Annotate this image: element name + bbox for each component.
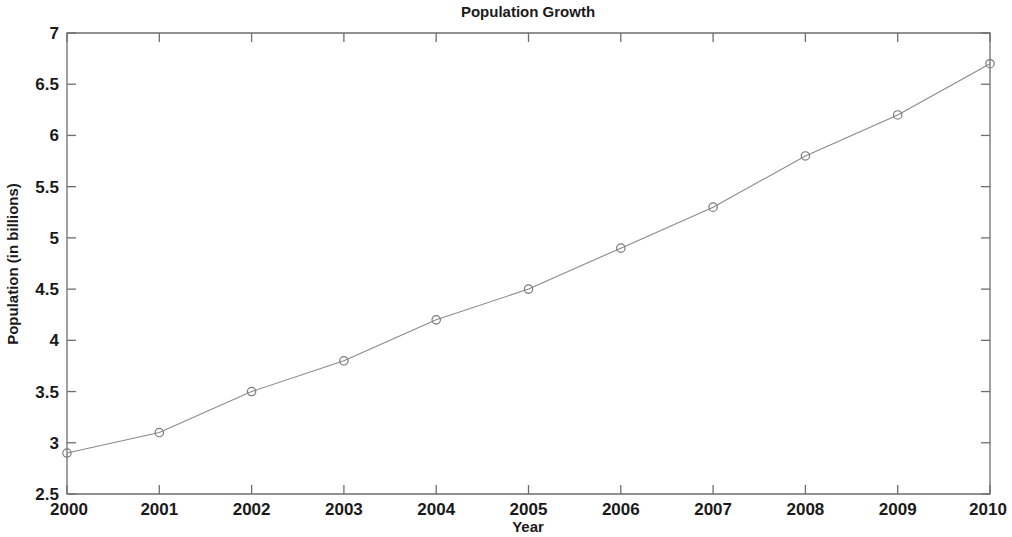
x-tick-label: 2008 [786, 500, 824, 519]
y-tick-label: 6.5 [35, 75, 59, 94]
y-tick-label: 3 [50, 434, 59, 453]
x-tick-label: 2000 [50, 500, 88, 519]
x-tick-label: 2002 [233, 500, 271, 519]
x-tick-label: 2007 [694, 500, 732, 519]
x-tick-label: 2003 [325, 500, 363, 519]
x-axis-label: Year [512, 518, 544, 535]
y-tick-label: 5.5 [35, 178, 59, 197]
y-tick-label: 3.5 [35, 383, 59, 402]
chart-background [0, 0, 1012, 537]
y-tick-label: 5 [50, 229, 59, 248]
x-tick-label: 2010 [969, 500, 1007, 519]
y-tick-label: 4.5 [35, 280, 59, 299]
y-tick-label: 6 [50, 126, 59, 145]
y-tick-label: 7 [50, 24, 59, 43]
y-axis-label: Population (in billions) [4, 183, 21, 345]
y-tick-label: 4 [50, 331, 60, 350]
x-tick-label: 2004 [417, 500, 455, 519]
x-tick-label: 2005 [510, 500, 548, 519]
x-tick-label: 2006 [602, 500, 640, 519]
x-tick-label: 2009 [879, 500, 917, 519]
population-growth-line-chart: Population Growth 2.533.544.555.566.57 2… [0, 0, 1012, 537]
x-tick-label: 2001 [140, 500, 178, 519]
chart-figure: Population Growth 2.533.544.555.566.57 2… [0, 0, 1012, 537]
chart-title: Population Growth [461, 3, 595, 20]
